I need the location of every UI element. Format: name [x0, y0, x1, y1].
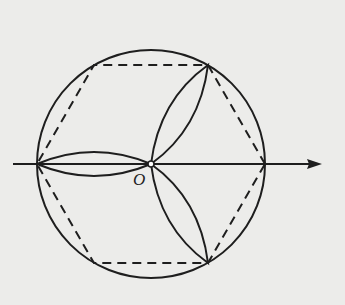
arrow-head-icon	[307, 159, 322, 169]
petal-lower-right	[151, 164, 208, 263]
rose-curve-diagram: O	[0, 0, 345, 305]
origin-point	[148, 161, 154, 167]
petal-upper-right	[151, 65, 208, 164]
diagram-canvas	[0, 0, 345, 305]
origin-label: O	[133, 170, 145, 190]
